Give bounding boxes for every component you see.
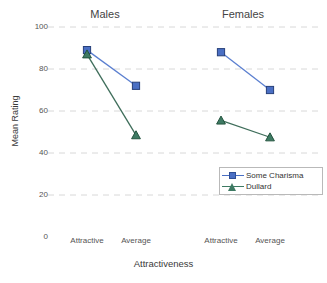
series-line-females-0 — [221, 52, 270, 90]
series-line-males-1 — [87, 54, 136, 135]
legend-label-some-charisma: Some Charisma — [246, 171, 303, 180]
x-tick-males-average: Average — [109, 236, 163, 245]
legend-item-some-charisma[interactable]: Some Charisma — [222, 170, 319, 181]
data-point-females-attractive-dullard[interactable] — [217, 116, 226, 124]
x-tick-females-attractive: Attractive — [194, 236, 248, 245]
data-point-males-average-dullard[interactable] — [132, 131, 141, 139]
x-tick-males-attractive: Attractive — [60, 236, 114, 245]
data-point-females-attractive-charisma[interactable] — [217, 49, 224, 56]
x-tick-females-average: Average — [243, 236, 297, 245]
x-axis-title: Attractiveness — [0, 258, 327, 269]
legend-key-square-icon — [222, 170, 244, 181]
series-line-females-1 — [221, 120, 270, 137]
legend-label-dullard: Dullard — [246, 182, 271, 191]
legend-item-dullard[interactable]: Dullard — [222, 181, 319, 192]
series-layer — [83, 47, 275, 141]
series-line-males-0 — [87, 50, 136, 86]
data-point-females-average-charisma[interactable] — [266, 86, 273, 93]
legend-key-triangle-icon — [222, 181, 244, 192]
data-point-males-average-charisma[interactable] — [132, 82, 139, 89]
legend: Some Charisma Dullard — [219, 167, 323, 195]
